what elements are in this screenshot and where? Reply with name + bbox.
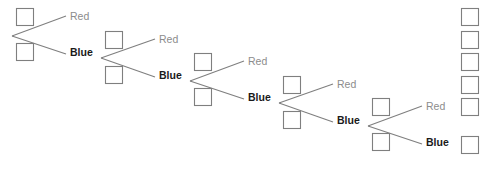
tree-stages-layer: RedBlueRedBlueRedBlueRedBlueRedBlue [12,9,449,151]
outcome-box-1[interactable] [462,9,479,26]
node-box-bottom-1[interactable] [17,44,34,61]
branch-label-blue-5: Blue [426,136,449,148]
branch-label-blue-1: Blue [70,46,93,58]
branch-label-red-5: Red [426,100,445,112]
node-box-bottom-2[interactable] [106,67,123,84]
node-box-top-1[interactable] [17,9,34,26]
node-box-bottom-3[interactable] [195,89,212,106]
tree-stage-4: RedBlue [279,77,360,129]
node-box-bottom-4[interactable] [284,112,301,129]
node-box-top-3[interactable] [195,54,212,71]
node-box-top-2[interactable] [106,32,123,49]
outcome-box-5[interactable] [462,99,479,116]
outcome-box-3[interactable] [462,54,479,71]
branch-label-blue-2: Blue [159,69,182,81]
node-box-bottom-5[interactable] [373,134,390,151]
branch-label-red-4: Red [337,78,356,90]
tree-stage-2: RedBlue [101,32,182,84]
branch-label-red-1: Red [70,10,89,22]
node-box-top-4[interactable] [284,77,301,94]
node-box-top-5[interactable] [373,99,390,116]
branch-label-red-3: Red [248,55,267,67]
branch-label-blue-3: Blue [248,91,271,103]
tree-stage-1: RedBlue [12,9,93,61]
outcome-box-6[interactable] [462,137,479,154]
branch-label-red-2: Red [159,33,178,45]
tree-diagram-svg: RedBlueRedBlueRedBlueRedBlueRedBlue [0,0,497,170]
outcome-box-4[interactable] [462,77,479,94]
diagram-canvas: RedBlueRedBlueRedBlueRedBlueRedBlue [0,0,497,170]
tree-stage-5: RedBlue [368,99,449,151]
tree-stage-3: RedBlue [190,54,271,106]
outcome-boxes-layer [462,9,479,154]
outcome-box-2[interactable] [462,32,479,49]
branch-label-blue-4: Blue [337,114,360,126]
